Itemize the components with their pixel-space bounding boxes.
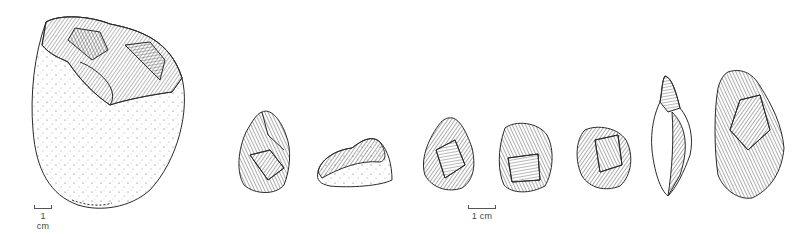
- scale-bar-line: [34, 205, 52, 209]
- scale-bar-label: 1 cm: [34, 211, 52, 231]
- scale-bar-left: 1 cm: [34, 205, 52, 231]
- artifact-illustration: [0, 0, 808, 235]
- artifact-borer: [652, 76, 692, 196]
- artifact-core-large: [32, 17, 184, 208]
- artifact-flake-4: [499, 123, 552, 192]
- scale-bar-label: 1 cm: [468, 211, 496, 221]
- artifact-side-scraper: [715, 71, 784, 199]
- artifact-flake-3: [423, 118, 473, 190]
- artifact-flake-2: [318, 139, 393, 187]
- scale-bar-line: [468, 205, 496, 209]
- artifact-flake-1: [239, 111, 290, 192]
- artifact-flake-5: [577, 127, 631, 189]
- scale-bar-right: 1 cm: [468, 205, 496, 221]
